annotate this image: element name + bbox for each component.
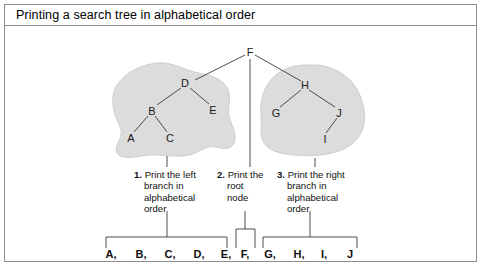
step-number-2: 2. [217, 169, 225, 180]
step-text-1: Print the left branch in alphabetical or… [144, 169, 196, 214]
edge-f-to-d [195, 55, 245, 80]
step-caption-2: 2. Print the root node [217, 169, 264, 203]
tree-graphics [5, 26, 476, 261]
bracket-root [236, 229, 255, 248]
output-letter-i: I, [321, 249, 327, 260]
tree-node-j: J [336, 108, 342, 119]
output-letter-h: H, [294, 249, 305, 260]
tree-node-f: F [247, 47, 254, 58]
step-text-3: Print the right branch in alphabetical o… [287, 169, 345, 214]
output-letter-a: A, [106, 249, 117, 260]
output-letter-d: D, [194, 249, 205, 260]
tree-node-d: D [181, 78, 189, 89]
output-letter-j: J [347, 249, 353, 260]
tree-node-e: E [209, 105, 216, 116]
tree-diagram: F D B E A C H G J I 1. Print the left br… [5, 26, 476, 261]
bracket-right-branch [263, 237, 357, 248]
tree-node-i: I [323, 134, 326, 145]
output-letter-b: B, [136, 249, 147, 260]
bracket-left-branch [106, 237, 227, 248]
step-text-2: Print the root node [227, 169, 263, 203]
figure-frame: Printing a search tree in alphabetical o… [4, 4, 477, 262]
step-caption-3: 3. Print the right branch in alphabetica… [277, 169, 363, 215]
tree-node-h: H [301, 80, 309, 91]
step-number-3: 3. [277, 169, 285, 180]
tree-node-g: G [272, 108, 281, 119]
step-number-1: 1. [134, 169, 142, 180]
output-letter-c: C, [165, 249, 176, 260]
figure-title-bar: Printing a search tree in alphabetical o… [5, 5, 476, 26]
step-caption-1: 1. Print the left branch in alphabetical… [134, 169, 207, 215]
tree-node-c: C [166, 133, 174, 144]
output-letter-e: E, [221, 249, 231, 260]
output-letter-g: G, [264, 249, 276, 260]
figure-title: Printing a search tree in alphabetical o… [16, 8, 255, 23]
tree-node-a: A [127, 133, 134, 144]
tree-node-b: B [148, 106, 155, 117]
output-letter-f: F, [241, 249, 250, 260]
